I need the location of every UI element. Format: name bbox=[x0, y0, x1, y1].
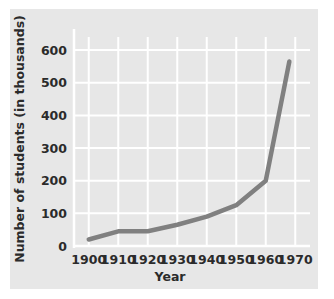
y-axis-tick-labels: 0100200300400500600 bbox=[41, 43, 67, 254]
y-tick-label: 0 bbox=[58, 239, 67, 254]
y-tick-label: 100 bbox=[41, 206, 67, 221]
x-axis-title: Year bbox=[154, 269, 187, 284]
y-tick-label: 400 bbox=[41, 108, 67, 123]
line-chart: 0100200300400500600 19001910192019301940… bbox=[10, 9, 318, 289]
y-tick-label: 300 bbox=[41, 141, 67, 156]
y-tick-label: 600 bbox=[41, 43, 67, 58]
y-tick-label: 200 bbox=[41, 173, 67, 188]
x-tick-label: 1970 bbox=[278, 252, 313, 267]
x-axis-tick-labels: 19001910192019301940195019601970 bbox=[71, 252, 313, 267]
chart-panel: 0100200300400500600 19001910192019301940… bbox=[10, 9, 318, 289]
chart-figure: 0100200300400500600 19001910192019301940… bbox=[0, 0, 334, 299]
y-tick-label: 500 bbox=[41, 75, 67, 90]
y-axis-title: Number of students (in thousands) bbox=[12, 15, 27, 263]
